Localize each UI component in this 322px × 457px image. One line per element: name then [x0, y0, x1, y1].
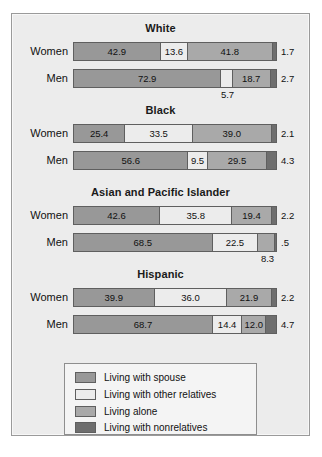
segment-value: 68.5 [134, 238, 153, 248]
segment-living-with-nonrelatives [275, 234, 276, 251]
row-label-women: Women [12, 206, 68, 225]
row-label-men: Men [12, 69, 68, 88]
row-label-women: Women [12, 42, 68, 61]
segment-living-with-nonrelatives [272, 125, 276, 142]
segment-living-with-nonrelatives [267, 152, 276, 169]
stacked-bar: 42.635.819.4 [73, 206, 277, 225]
segment-value: 25.4 [90, 129, 109, 139]
segment-value-outside: 4.7 [281, 315, 294, 334]
stacked-bar: 68.714.412.0 [73, 315, 277, 334]
legend-swatch-icon [75, 422, 96, 433]
chart-row: Women42.913.641.81.7 [12, 42, 309, 61]
stacked-bar: 68.522.5 [73, 233, 277, 252]
segment-value: 19.4 [242, 211, 261, 221]
segment-living-alone: 19.4 [232, 207, 271, 224]
segment-living-with-spouse: 42.6 [74, 207, 160, 224]
row-label-men: Men [12, 315, 68, 334]
segment-living-alone [258, 234, 275, 251]
stacked-bar: 56.69.529.5 [73, 151, 277, 170]
segment-value: 9.5 [191, 156, 204, 166]
legend-label: Living alone [104, 407, 157, 417]
segment-value: 12.0 [245, 320, 264, 330]
segment-value: 56.6 [121, 156, 140, 166]
segment-living-alone: 18.7 [233, 70, 271, 87]
segment-value: 42.9 [108, 47, 127, 57]
segment-value: 21.9 [240, 293, 259, 303]
segment-living-with-other-relatives: 13.6 [161, 43, 188, 60]
row-label-men: Men [12, 233, 68, 252]
segment-value: 41.8 [221, 47, 240, 57]
group-title: Hispanic [12, 268, 309, 280]
segment-value: 68.7 [134, 320, 153, 330]
legend-label: Living with other relatives [104, 390, 216, 400]
segment-living-with-other-relatives: 33.5 [125, 125, 193, 142]
segment-value: 72.9 [138, 74, 157, 84]
segment-value: 33.5 [149, 129, 168, 139]
group-title: Asian and Pacific Islander [12, 186, 309, 198]
segment-value: 35.8 [186, 211, 205, 221]
segment-living-with-other-relatives: 14.4 [213, 316, 242, 333]
legend-swatch-icon [75, 389, 96, 400]
chart-row: Men56.69.529.54.3 [12, 151, 309, 170]
segment-living-with-other-relatives: 9.5 [188, 152, 207, 169]
segment-value: 22.5 [226, 238, 245, 248]
segment-value: 39.9 [105, 293, 124, 303]
legend-label: Living with spouse [104, 373, 186, 383]
segment-value-outside: 2.1 [281, 124, 294, 143]
group-title: White [12, 22, 309, 34]
chart-row: Men68.522.58.3.5 [12, 233, 309, 252]
segment-living-with-spouse: 25.4 [74, 125, 125, 142]
segment-living-with-spouse: 68.7 [74, 316, 213, 333]
segment-living-with-nonrelatives [272, 207, 276, 224]
row-label-women: Women [12, 288, 68, 307]
chart-legend: Living with spouseLiving with other rela… [64, 363, 257, 435]
chart-frame: WhiteWomen42.913.641.81.7Men72.918.75.72… [11, 13, 310, 436]
segment-value: 36.0 [181, 293, 200, 303]
segment-living-with-spouse: 68.5 [74, 234, 213, 251]
chart-row: Women42.635.819.42.2 [12, 206, 309, 225]
segment-value: 42.6 [107, 211, 126, 221]
segment-value: 18.7 [242, 74, 261, 84]
segment-living-with-spouse: 72.9 [74, 70, 221, 87]
segment-living-alone: 39.0 [193, 125, 272, 142]
group-title: Black [12, 104, 309, 116]
segment-living-alone: 41.8 [188, 43, 272, 60]
stacked-bar: 72.918.7 [73, 69, 277, 88]
legend-item: Living with nonrelatives [75, 421, 207, 434]
segment-value-outside: 2.2 [281, 206, 294, 225]
row-label-men: Men [12, 151, 68, 170]
segment-value-outside: 1.7 [281, 42, 294, 61]
legend-swatch-icon [75, 372, 96, 383]
row-label-women: Women [12, 124, 68, 143]
chart-row: Men72.918.75.72.7 [12, 69, 309, 88]
chart-root: WhiteWomen42.913.641.81.7Men72.918.75.72… [0, 0, 322, 457]
chart-row: Women25.433.539.02.1 [12, 124, 309, 143]
segment-living-with-spouse: 42.9 [74, 43, 161, 60]
legend-item: Living with spouse [75, 371, 186, 384]
segment-value: 39.0 [223, 129, 242, 139]
segment-living-with-other-relatives: 35.8 [160, 207, 232, 224]
chart-row: Men68.714.412.04.7 [12, 315, 309, 334]
stacked-bar: 39.936.021.9 [73, 288, 277, 307]
segment-living-alone: 12.0 [242, 316, 266, 333]
segment-value-callout: 8.3 [261, 253, 274, 264]
segment-value: 14.4 [218, 320, 237, 330]
segment-living-with-other-relatives: 36.0 [155, 289, 228, 306]
segment-value-outside: 2.2 [281, 288, 294, 307]
stacked-bar: 42.913.641.8 [73, 42, 277, 61]
legend-swatch-icon [75, 406, 96, 417]
segment-value-outside: 2.7 [281, 69, 294, 88]
segment-value: 29.5 [228, 156, 247, 166]
segment-living-with-nonrelatives [273, 43, 276, 60]
chart-row: Women39.936.021.92.2 [12, 288, 309, 307]
segment-living-with-other-relatives [221, 70, 233, 87]
legend-label: Living with nonrelatives [104, 423, 207, 433]
segment-living-with-other-relatives: 22.5 [213, 234, 259, 251]
segment-living-with-nonrelatives [272, 289, 276, 306]
segment-living-alone: 21.9 [227, 289, 271, 306]
segment-living-with-spouse: 39.9 [74, 289, 155, 306]
legend-item: Living alone [75, 405, 157, 418]
segment-living-with-spouse: 56.6 [74, 152, 188, 169]
segment-value-callout: 5.7 [221, 89, 234, 100]
segment-value-outside: 4.3 [281, 151, 294, 170]
